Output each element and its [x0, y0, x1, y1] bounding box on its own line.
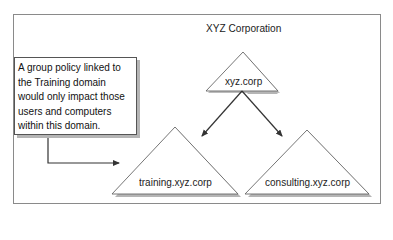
node-root — [206, 52, 280, 94]
annotation-text: A group policy linked to the Training do… — [18, 60, 131, 133]
edge-note-training — [48, 135, 119, 163]
annotation-note: A group policy linked to the Training do… — [14, 57, 137, 135]
node-root-label: xyz.corp — [225, 75, 262, 87]
edge-root-consulting — [242, 91, 282, 136]
node-training-label: training.xyz.corp — [139, 176, 212, 188]
node-consulting-label: consulting.xyz.corp — [265, 176, 350, 188]
edge-root-training — [202, 91, 242, 136]
